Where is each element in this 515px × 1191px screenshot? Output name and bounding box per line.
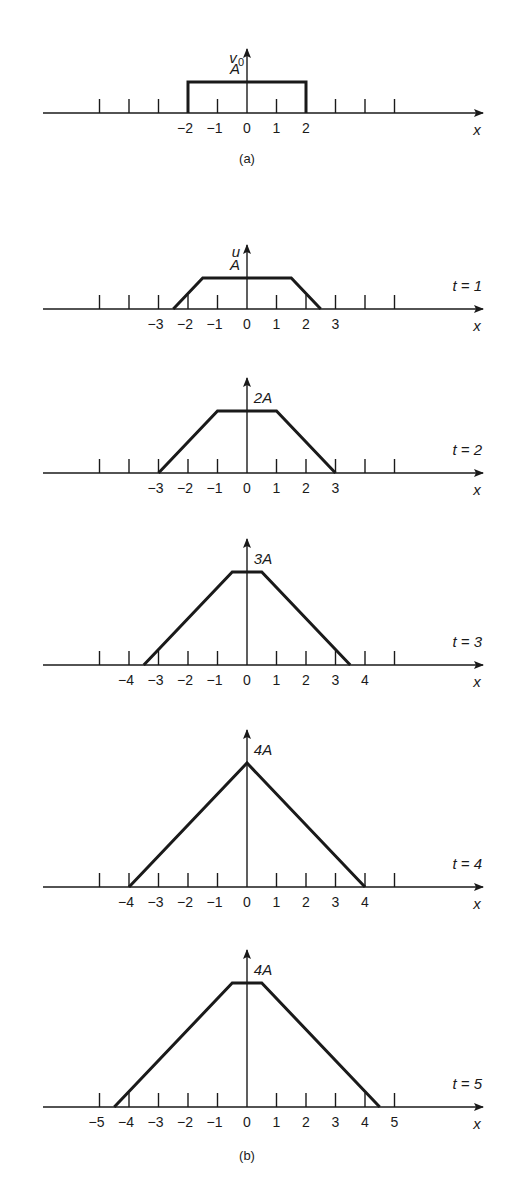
tick-label: 2 [302, 120, 310, 136]
x-axis-label: x [472, 673, 481, 690]
tick-label: 3 [332, 672, 340, 688]
tick-label: 1 [273, 120, 281, 136]
y-axis-label: u [232, 243, 241, 260]
tick-label: −2 [177, 1114, 193, 1130]
tick-label: −1 [207, 672, 223, 688]
tick-label: 1 [273, 480, 281, 496]
y-axis-label-subscript: 0 [238, 56, 244, 68]
amplitude-label: 2A [253, 389, 272, 406]
tick-label: 2 [302, 480, 310, 496]
tick-label: 2 [302, 1114, 310, 1130]
time-label: t = 5 [452, 1075, 482, 1092]
tick-label: −1 [207, 894, 223, 910]
tick-label: −1 [207, 316, 223, 332]
amplitude-label: 3A [254, 550, 272, 567]
tick-label: 2 [302, 672, 310, 688]
amplitude-label: 4A [254, 741, 272, 758]
tick-label: −3 [148, 480, 164, 496]
tick-label: 2 [302, 316, 310, 332]
tick-label: −3 [148, 1114, 164, 1130]
tick-label: 3 [332, 316, 340, 332]
tick-label: −5 [89, 1114, 105, 1130]
amplitude-label: 4A [254, 961, 272, 978]
tick-label: −4 [118, 1114, 134, 1130]
time-label: t = 4 [452, 855, 482, 872]
tick-label: 1 [273, 1114, 281, 1130]
x-axis-label: x [472, 121, 481, 138]
tick-label: 4 [361, 894, 369, 910]
tick-label: −4 [118, 672, 134, 688]
panel-t4: −4−3−2−101234x4At = 4 [43, 730, 483, 912]
tick-label: −4 [118, 894, 134, 910]
time-label: t = 2 [452, 441, 482, 458]
x-axis-label: x [472, 895, 481, 912]
x-axis-label: x [472, 1115, 481, 1132]
time-label: t = 3 [452, 633, 482, 650]
x-axis-label: x [472, 317, 481, 334]
x-axis-label: x [472, 481, 481, 498]
tick-label: 5 [391, 1114, 399, 1130]
tick-label: −3 [148, 672, 164, 688]
tick-label: 1 [273, 894, 281, 910]
tick-label: 0 [243, 480, 251, 496]
tick-label: 4 [361, 672, 369, 688]
tick-label: 2 [302, 894, 310, 910]
tick-label: 3 [332, 480, 340, 496]
time-label: t = 1 [452, 277, 482, 294]
tick-label: −1 [207, 480, 223, 496]
panel-t3: −4−3−2−101234x3At = 3 [43, 539, 483, 690]
caption-b: (b) [239, 1148, 255, 1163]
tick-label: 0 [243, 894, 251, 910]
panel-t2: −3−2−10123x2At = 2 [43, 378, 483, 498]
tick-label: 0 [243, 1114, 251, 1130]
tick-label: 1 [273, 316, 281, 332]
tick-label: −3 [148, 316, 164, 332]
tick-label: −1 [207, 120, 223, 136]
tick-label: −2 [177, 120, 193, 136]
tick-label: −1 [207, 1114, 223, 1130]
tick-label: −3 [148, 894, 164, 910]
tick-label: 1 [273, 672, 281, 688]
panel-t5: −5−4−3−2−1012345x4At = 5 [43, 950, 483, 1132]
tick-label: −2 [177, 480, 193, 496]
tick-label: 3 [332, 1114, 340, 1130]
tick-label: 0 [243, 672, 251, 688]
tick-label: 3 [332, 894, 340, 910]
tick-label: 0 [243, 316, 251, 332]
panel-t1: −3−2−10123xAut = 1 [43, 243, 483, 334]
tick-label: −2 [177, 894, 193, 910]
tick-label: −2 [177, 672, 193, 688]
wave-propagation-figure: −2−1012xAv0−3−2−10123xAut = 1−3−2−10123x… [0, 0, 515, 1191]
caption-a: (a) [239, 151, 255, 166]
tick-label: −2 [177, 316, 193, 332]
tick-label: 0 [243, 120, 251, 136]
tick-label: 4 [361, 1114, 369, 1130]
panel-a: −2−1012xAv0 [43, 49, 483, 138]
